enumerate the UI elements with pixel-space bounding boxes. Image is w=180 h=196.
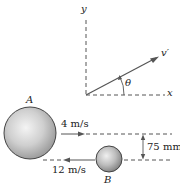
ball-b-arrowhead-icon [63, 158, 70, 163]
ball-a-arrowhead-icon [78, 132, 85, 137]
ball-a [4, 107, 56, 159]
ball-b-label: B [104, 175, 111, 185]
velocity-arrowhead-icon [150, 57, 159, 64]
angle-label: θ [125, 78, 131, 88]
y-axis-label: y [81, 4, 87, 14]
velocity-label: v′ [161, 48, 169, 58]
offset-label: 75 mm [147, 142, 180, 152]
angle-arc [120, 77, 124, 95]
ball-a-label: A [26, 95, 33, 105]
x-axis-label: x [167, 88, 173, 98]
ball-b-speed: 12 m/s [52, 165, 86, 175]
offset-arrowhead-bottom-icon [141, 154, 145, 160]
ball-b [96, 146, 122, 172]
offset-arrowhead-top-icon [141, 135, 145, 141]
ball-a-speed: 4 m/s [61, 119, 89, 129]
velocity-vector [86, 58, 156, 95]
